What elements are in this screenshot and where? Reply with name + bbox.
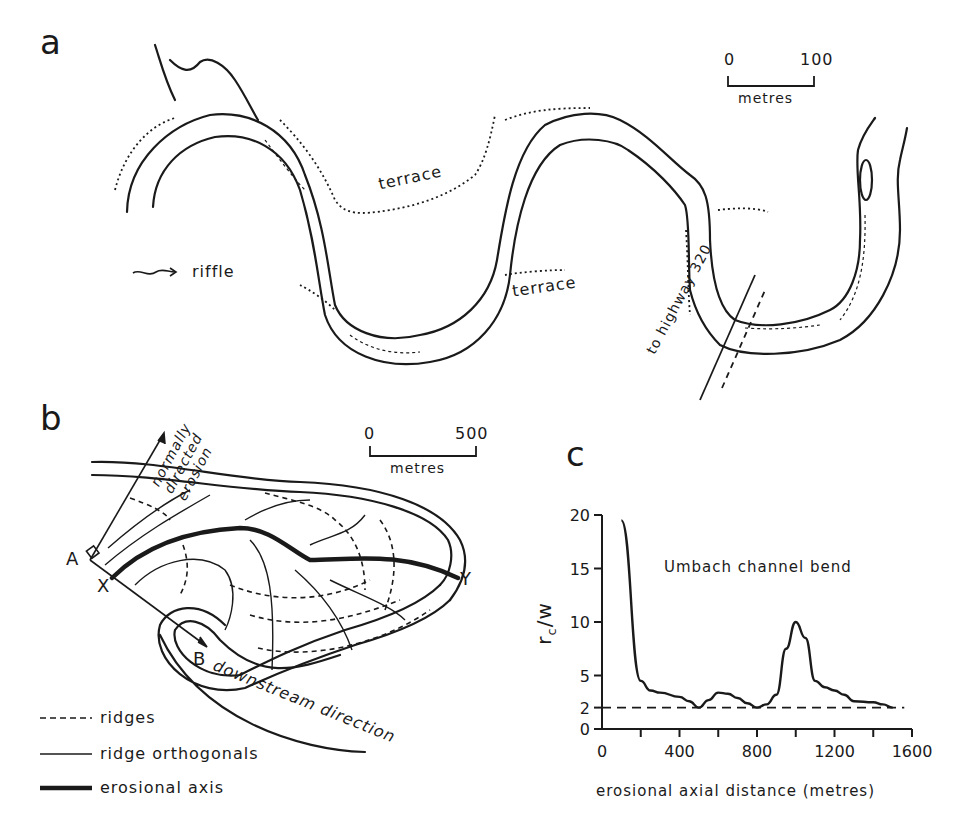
x-tick-label: 1600 bbox=[892, 742, 933, 761]
y-tick-label: 10 bbox=[570, 613, 590, 632]
x-tick-label: 400 bbox=[664, 742, 695, 761]
chart-axes bbox=[602, 515, 912, 729]
x-tick-label: 1200 bbox=[814, 742, 855, 761]
chart-xlabel: erosional axial distance (metres) bbox=[596, 782, 875, 800]
data-series-line bbox=[621, 520, 892, 707]
y-tick-label: 5 bbox=[580, 667, 590, 686]
y-tick-label: 2 bbox=[580, 699, 590, 718]
x-tick-label: 0 bbox=[597, 742, 607, 761]
y-tick-label: 15 bbox=[570, 560, 590, 579]
y-tick-label: 0 bbox=[580, 720, 590, 739]
chart-ylabel: rc/w bbox=[532, 602, 559, 645]
chart-title: Umbach channel bend bbox=[664, 558, 852, 576]
rc-w-chart: 025101520040080012001600 bbox=[0, 0, 972, 824]
x-tick-label: 800 bbox=[742, 742, 773, 761]
y-tick-label: 20 bbox=[570, 506, 590, 525]
